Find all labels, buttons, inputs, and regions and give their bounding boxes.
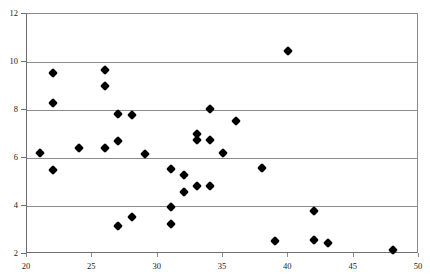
data-point [127,110,137,120]
scatter-plot-figure: 24681012 20253035404550 [0,0,430,277]
x-tick-mark-25 [91,253,92,257]
x-tick-mark-20 [26,253,27,257]
data-point [205,135,215,145]
gridline-y-4 [27,206,417,207]
gridline-y-6 [27,158,417,159]
y-tick-label-10: 10 [10,57,19,66]
data-point [192,135,202,145]
data-point [270,236,280,246]
x-tick-mark-40 [287,253,288,257]
data-point [114,136,124,146]
data-point [257,163,267,173]
data-point [100,65,110,75]
data-point [231,116,241,126]
data-point [179,187,189,197]
x-tick-mark-35 [222,253,223,257]
data-point [48,98,58,108]
x-tick-mark-45 [353,253,354,257]
data-point [114,221,124,231]
data-point [283,46,293,56]
data-point [323,238,333,248]
data-point [166,164,176,174]
gridline-y-10 [27,62,417,63]
data-point [48,68,58,78]
gridline-y-8 [27,110,417,111]
data-point [100,143,110,153]
data-point [127,212,137,222]
data-point [100,81,110,91]
x-tick-mark-50 [418,253,419,257]
data-point [166,202,176,212]
figure-caption [8,268,428,277]
data-point [218,148,228,158]
plot-area [26,13,418,253]
data-point [205,181,215,191]
y-tick-label-12: 12 [10,9,19,18]
data-point [74,143,84,153]
y-tick-label-4: 4 [14,201,18,210]
data-point [35,148,45,158]
data-point [166,219,176,229]
y-tick-label-8: 8 [14,105,18,114]
x-tick-mark-30 [157,253,158,257]
data-point [310,206,320,216]
data-point [192,181,202,191]
data-point [179,170,189,180]
data-point [205,104,215,114]
y-tick-label-6: 6 [14,153,18,162]
data-point [310,235,320,245]
y-axis: 24681012 [0,0,26,277]
data-point [48,165,58,175]
